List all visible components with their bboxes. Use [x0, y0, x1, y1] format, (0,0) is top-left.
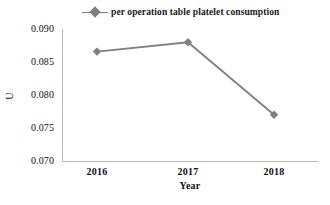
y-axis-title: U [2, 88, 18, 104]
y-tick-label: 0.075 [0, 122, 58, 134]
x-axis-title: Year [62, 180, 318, 191]
y-tick-label: 0.090 [0, 23, 58, 35]
chart-legend: per operation table platelet consumption [82, 5, 280, 19]
series-line-group [62, 29, 318, 162]
legend-item-label: per operation table platelet consumption [111, 7, 280, 17]
series-polyline [97, 42, 274, 114]
series-markers [93, 38, 278, 119]
y-tick-label: 0.085 [0, 56, 58, 68]
legend-diamond-glyph [89, 6, 100, 17]
x-tick-label: 2018 [244, 166, 304, 177]
y-tick-label: 0.070 [0, 155, 58, 167]
chart-figure: per operation table platelet consumption… [0, 0, 330, 205]
data-point-marker [93, 47, 101, 55]
plot-area [62, 29, 318, 162]
diamond-marker-icon [82, 6, 108, 18]
x-tick-label: 2017 [158, 166, 218, 177]
x-axis-tick-labels: 2016 2017 2018 [62, 166, 318, 180]
x-tick-label: 2016 [67, 166, 127, 177]
